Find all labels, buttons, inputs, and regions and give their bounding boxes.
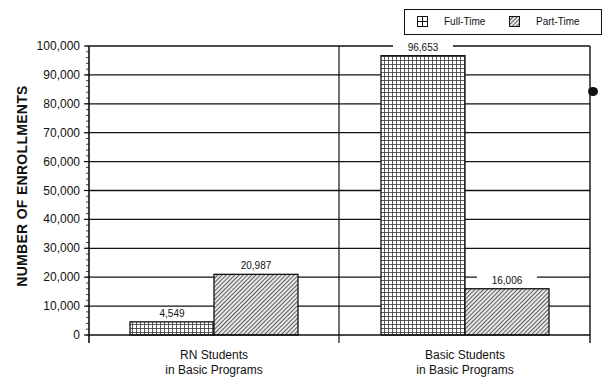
bar-value-label: 96,653 — [393, 42, 453, 53]
y-tick-label: 80,000 — [43, 97, 80, 111]
y-axis-label: NUMBER OF ENROLLMENTS — [14, 56, 30, 316]
grid-pattern-swatch-icon — [417, 16, 428, 27]
x-category-label: Basic Studentsin Basic Programs — [365, 348, 565, 378]
bar-full-time-1 — [381, 56, 465, 335]
bar-value-label: 20,987 — [226, 260, 286, 271]
y-tick-label: 0 — [73, 328, 80, 342]
bar-value-label: 4,549 — [142, 308, 202, 319]
y-tick-label: 100,000 — [37, 39, 80, 53]
y-tick-label: 70,000 — [43, 126, 80, 140]
y-tick-label: 20,000 — [43, 270, 80, 284]
legend-label-part-time: Part-Time — [536, 16, 580, 27]
bar-value-label: 16,006 — [477, 275, 537, 286]
bar-part-time-0 — [214, 274, 298, 335]
y-tick-label: 40,000 — [43, 212, 80, 226]
hatch-pattern-swatch-icon — [509, 16, 520, 27]
y-tick-label: 10,000 — [43, 299, 80, 313]
y-tick-label: 90,000 — [43, 68, 80, 82]
legend: Full-Time Part-Time — [404, 9, 602, 35]
bar-chart — [0, 0, 608, 392]
y-tick-label: 30,000 — [43, 241, 80, 255]
bar-full-time-0 — [130, 322, 214, 335]
legend-item-part-time: Part-Time — [509, 16, 580, 27]
scan-mark — [588, 87, 598, 96]
legend-item-full-time: Full-Time — [417, 16, 485, 27]
legend-label-full-time: Full-Time — [444, 16, 485, 27]
y-tick-label: 50,000 — [43, 184, 80, 198]
y-tick-label: 60,000 — [43, 155, 80, 169]
bar-part-time-1 — [465, 289, 549, 335]
x-category-label: RN Studentsin Basic Programs — [114, 348, 314, 378]
